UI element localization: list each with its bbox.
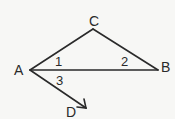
angle-label-3: 3 (56, 73, 63, 88)
point-label-b: B (161, 59, 170, 75)
diagram-canvas: C A B D 1 2 3 (0, 0, 175, 119)
point-label-c: C (89, 13, 99, 29)
geometry-diagram: C A B D 1 2 3 (0, 0, 175, 119)
angle-label-1: 1 (55, 54, 62, 69)
point-label-a: A (14, 62, 24, 78)
angle-label-2: 2 (121, 54, 128, 69)
point-label-d: D (66, 104, 76, 119)
